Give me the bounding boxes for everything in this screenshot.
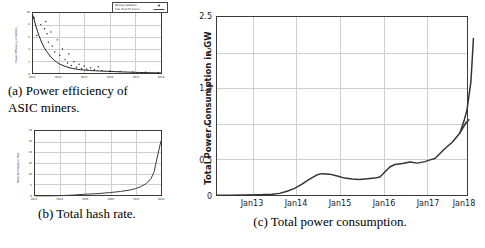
panel-a-caption-line2: ASIC miners. xyxy=(8,99,166,116)
panel-c-caption: (c) Total power consumption. xyxy=(190,214,470,230)
panel-b-xtick-0: 2013 xyxy=(31,198,38,201)
legend-entry-mining-hardware: Mining Hardware xyxy=(115,4,165,7)
panel-b-caption: (b) Total hash rate. xyxy=(8,206,166,222)
panel-b-hash-rate: Total Hash Rate in TH/s 2013 2014 2015 2… xyxy=(0,126,170,248)
panel-b-ytick-2: 10 xyxy=(29,173,32,176)
panel-a-ytick-4: 8 xyxy=(28,23,30,26)
panel-a-ytick-3: 6 xyxy=(28,35,30,38)
scatter-marker-icon xyxy=(153,4,165,7)
panel-b-ytick-6: 30 xyxy=(29,129,32,132)
panel-a-xtick-0: 2013 xyxy=(29,76,36,79)
panel-b-y-axis-title: Total Hash Rate in TH/s xyxy=(16,138,20,198)
panel-c-ytick-0: 0 xyxy=(207,192,212,201)
panel-b-xtick-2: 2015 xyxy=(82,198,89,201)
panel-a-caption: (a) Power efficiency of ASIC miners. xyxy=(8,82,166,116)
panel-b-ytick-5: 25 xyxy=(29,140,32,143)
panel-b-line xyxy=(35,141,161,196)
legend-label-fit-curve: Exp. Best Fit Curve xyxy=(115,8,151,11)
panel-a-ytick-0: 0 xyxy=(28,73,30,76)
panel-b-xtick-4: 2017 xyxy=(133,198,140,201)
panel-a-xtick-5: 2018 xyxy=(158,76,165,79)
panel-c-ytick-5: 2.5 xyxy=(199,12,212,21)
subfigure-group: Power Efficiency in W/GHs xyxy=(0,0,485,248)
panel-a-y-axis-title: Power Efficiency in W/GHs xyxy=(14,15,18,75)
panel-a-ytick-5: 10 xyxy=(27,11,30,14)
panel-c-xtick-0: Jan13 xyxy=(241,199,264,208)
panel-a-xtick-1: 2014 xyxy=(55,76,62,79)
panel-a-power-efficiency: Power Efficiency in W/GHs xyxy=(0,0,170,120)
panel-a-fit-curve xyxy=(33,15,161,72)
panel-a-ytick-1: 2 xyxy=(28,60,30,63)
panel-c-ytick-4: 2 xyxy=(207,48,212,57)
panel-b-xtick-5: 2018 xyxy=(158,198,165,201)
panel-c-plot-area xyxy=(216,16,468,196)
panel-b-ytick-0: 0 xyxy=(30,195,32,198)
panel-c-xtick-3: Jan16 xyxy=(373,199,396,208)
panel-b-ytick-1: 5 xyxy=(30,184,32,187)
panel-b-series xyxy=(35,131,161,196)
panel-a-caption-line1: (a) Power efficiency of xyxy=(8,83,128,98)
fit-line-icon xyxy=(153,8,165,11)
panel-b-ytick-4: 20 xyxy=(29,151,32,154)
panel-a-scatter-points xyxy=(34,17,160,73)
panel-c-xtick-1: Jan14 xyxy=(285,199,308,208)
panel-c-ytick-1: 0.5 xyxy=(199,156,212,165)
panel-c-power-consumption: Total Power Consumption in GW Jan13 Jan1… xyxy=(170,0,485,248)
panel-c-y-axis-title: Total Power Consumption in GW xyxy=(203,18,213,198)
panel-a-xtick-4: 2017 xyxy=(133,76,140,79)
panel-a-legend: Mining Hardware Exp. Best Fit Curve xyxy=(112,2,168,13)
panel-a-plot-area xyxy=(32,12,162,74)
panel-c-xtick-5: Jan18 xyxy=(453,199,476,208)
panel-c-line-extension xyxy=(217,17,467,196)
panel-c-xtick-2: Jan15 xyxy=(329,199,352,208)
legend-entry-fit-curve: Exp. Best Fit Curve xyxy=(115,8,165,11)
panel-a-series xyxy=(33,13,161,74)
panel-b-ytick-3: 15 xyxy=(29,162,32,165)
panel-b-xtick-1: 2014 xyxy=(56,198,63,201)
legend-label-mining-hardware: Mining Hardware xyxy=(115,4,151,7)
panel-a-xtick-3: 2016 xyxy=(107,76,114,79)
panel-c-ytick-2: 1 xyxy=(207,120,212,129)
panel-b-plot-area xyxy=(34,130,162,196)
panel-a-xtick-2: 2015 xyxy=(81,76,88,79)
panel-a-ytick-2: 4 xyxy=(28,48,30,51)
panel-c-xtick-4: Jan17 xyxy=(417,199,440,208)
panel-c-ytick-3: 1.5 xyxy=(199,84,212,93)
panel-b-xtick-3: 2016 xyxy=(107,198,114,201)
